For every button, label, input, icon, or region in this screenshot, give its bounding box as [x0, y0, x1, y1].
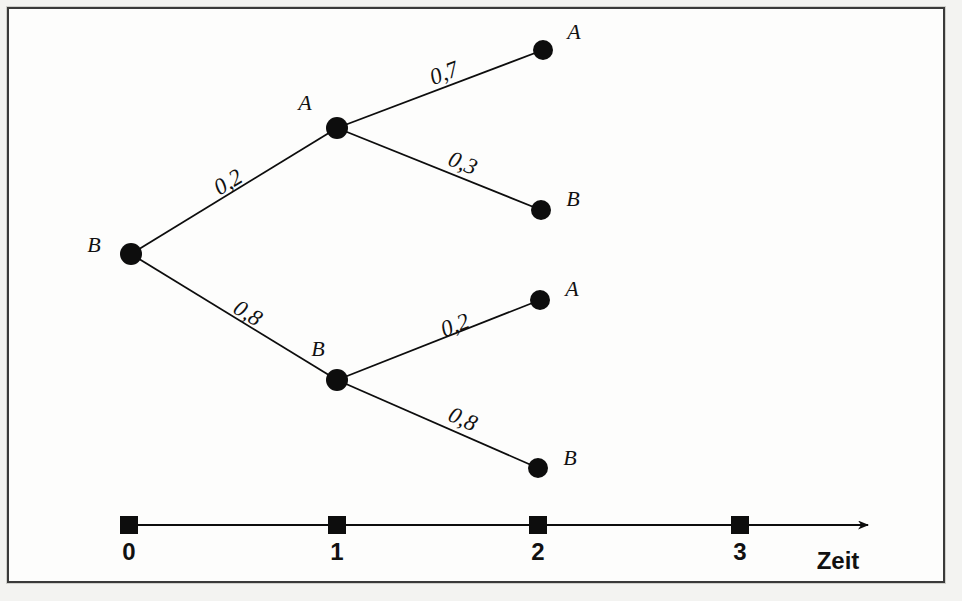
tree-edge — [337, 380, 538, 468]
diagram-canvas — [0, 0, 962, 601]
axis-tick-marker — [328, 516, 346, 534]
tree-node-label: A — [567, 21, 580, 43]
axis-tick-label: 2 — [531, 540, 544, 564]
tree-edges — [131, 50, 543, 468]
tree-node — [530, 290, 550, 310]
axis-tick-label: 3 — [733, 540, 746, 564]
tree-node-label: A — [565, 278, 578, 300]
tree-node-label: A — [298, 92, 311, 114]
tree-node-label: B — [311, 338, 324, 360]
axis-tick-marker — [731, 516, 749, 534]
tree-node-label: B — [563, 447, 576, 469]
axis-tick-marker — [120, 516, 138, 534]
tree-node — [533, 40, 553, 60]
tree-edge — [337, 300, 540, 380]
tree-node — [326, 369, 348, 391]
tree-node — [326, 117, 348, 139]
tree-node — [528, 458, 548, 478]
tree-node — [531, 200, 551, 220]
axis-tick-label: 0 — [122, 540, 135, 564]
axis-title: Zeit — [817, 549, 860, 573]
figure-page: BABABAB 0,20,80,70,30,20,8 0123Zeit — [0, 0, 962, 601]
tree-node-label: B — [566, 188, 579, 210]
tree-node — [120, 243, 142, 265]
tree-node-label: B — [87, 234, 100, 256]
tree-edge — [337, 128, 541, 210]
axis-tick-label: 1 — [330, 540, 343, 564]
axis-tick-marker — [529, 516, 547, 534]
